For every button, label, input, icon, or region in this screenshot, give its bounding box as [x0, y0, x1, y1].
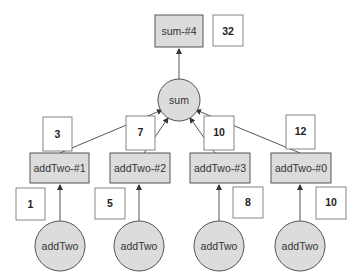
- input-value: 10: [325, 196, 337, 208]
- addtwo-node-1[interactable]: addTwo-#1: [30, 153, 89, 183]
- edge-value-box-3: 10: [204, 116, 234, 150]
- addtwo-source-label: addTwo: [282, 240, 319, 252]
- input-value-box-0: 10: [316, 187, 346, 219]
- addtwo-source-label: addTwo: [201, 240, 238, 252]
- addtwo-source-0[interactable]: addTwo: [275, 221, 325, 271]
- edge-value-box-0: 12: [286, 115, 315, 149]
- dataflow-diagram: sum-#4 32 sum 3 7 10 12 addTwo-#1 addTwo…: [0, 0, 361, 280]
- edge-value: 3: [55, 128, 61, 140]
- addtwo-source-label: addTwo: [121, 240, 158, 252]
- input-value: 8: [245, 196, 251, 208]
- addtwo-source-3[interactable]: addTwo: [194, 221, 244, 271]
- sum-node-label: sum: [169, 94, 189, 106]
- sum-node[interactable]: sum: [158, 79, 200, 121]
- input-value: 1: [28, 198, 34, 210]
- output-node-label: sum-#4: [161, 25, 196, 37]
- addtwo-node-0[interactable]: addTwo-#0: [271, 153, 331, 183]
- addtwo-node-label: addTwo-#0: [275, 162, 327, 174]
- addtwo-node-label: addTwo-#1: [34, 162, 86, 174]
- addtwo-node-3[interactable]: addTwo-#3: [190, 153, 250, 183]
- edge-value: 12: [295, 125, 307, 137]
- addtwo-source-label: addTwo: [42, 240, 79, 252]
- edge-value: 7: [138, 126, 144, 138]
- output-node[interactable]: sum-#4: [155, 15, 203, 47]
- input-value-box-1: 1: [16, 188, 45, 220]
- input-value-box-3: 8: [233, 187, 263, 218]
- addtwo-source-1[interactable]: addTwo: [35, 221, 85, 271]
- input-value-box-2: 5: [95, 188, 125, 219]
- addtwo-source-2[interactable]: addTwo: [114, 221, 164, 271]
- output-value-box: 32: [213, 15, 243, 46]
- edge-value-box-2: 7: [126, 116, 155, 150]
- addtwo-node-2[interactable]: addTwo-#2: [110, 153, 170, 183]
- edge-value-box-1: 3: [43, 117, 72, 151]
- edge-value: 10: [213, 126, 225, 138]
- addtwo-node-label: addTwo-#3: [194, 162, 246, 174]
- output-value: 32: [222, 25, 234, 37]
- addtwo-node-label: addTwo-#2: [114, 162, 166, 174]
- input-value: 5: [107, 197, 113, 209]
